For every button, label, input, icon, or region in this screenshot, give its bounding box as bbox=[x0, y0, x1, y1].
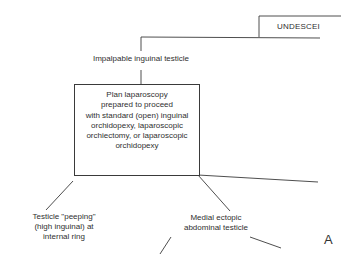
plan-laparoscopy-box: Plan laparoscopy prepared to proceed wit… bbox=[74, 84, 200, 176]
plan-box-text: Plan laparoscopy prepared to proceed wit… bbox=[75, 85, 199, 152]
plan-line-1: Plan laparoscopy bbox=[75, 90, 199, 100]
plan-line-3: with standard (open) inguinal bbox=[75, 111, 199, 121]
medial-ectopic-node-label: Medial ectopic abdominal testicle bbox=[170, 213, 262, 233]
plan-line-6: orchidopexy bbox=[75, 141, 199, 151]
connector-medial-left-child bbox=[160, 237, 171, 254]
branch-line-top bbox=[141, 37, 320, 38]
root-node-label: UNDESCEI bbox=[277, 22, 320, 32]
plan-line-4: orchidopexy, laparoscopic bbox=[75, 121, 199, 131]
connector-to-peeping bbox=[46, 181, 73, 210]
impalpable-node-label: Impalpable inguinal testicle bbox=[91, 54, 191, 64]
connector-right-offpage bbox=[198, 175, 318, 182]
medial-line-2: abdominal testicle bbox=[170, 223, 262, 233]
medial-line-1: Medial ectopic bbox=[170, 213, 262, 223]
peeping-line-3: internal ring bbox=[18, 232, 110, 242]
connector-medial-right-child bbox=[250, 237, 281, 248]
peeping-node-label: Testicle "peeping" (high inguinal) at in… bbox=[18, 212, 110, 242]
connector-to-medial-ectopic bbox=[198, 175, 230, 211]
plan-line-5: orchiectomy, or laparoscopic bbox=[75, 131, 199, 141]
peeping-line-2: (high inguinal) at bbox=[18, 222, 110, 232]
peeping-line-1: Testicle "peeping" bbox=[18, 212, 110, 222]
plan-line-2: prepared to proceed bbox=[75, 100, 199, 110]
panel-label: A bbox=[324, 232, 333, 247]
